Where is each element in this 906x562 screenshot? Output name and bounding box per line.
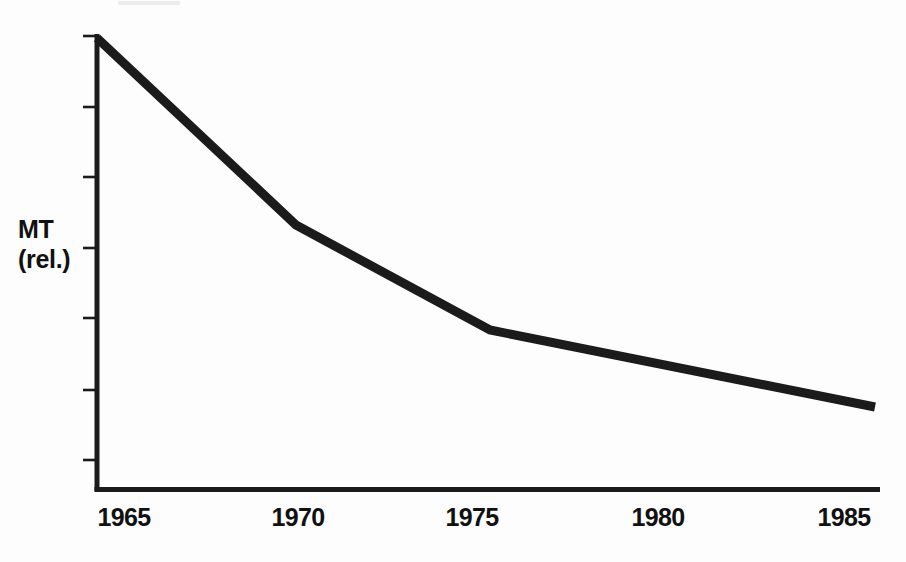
x-tick-label-1965: 1965	[79, 503, 169, 532]
chart-page: MT (rel.) 1965 1970 1975 1980 1985	[0, 0, 906, 562]
x-tick-label-1970: 1970	[253, 503, 343, 532]
y-axis-title: MT (rel.)	[18, 215, 94, 274]
y-axis-title-line-2: (rel.)	[18, 245, 94, 275]
x-tick-label-1985: 1985	[799, 503, 889, 532]
line-chart-plot	[0, 0, 906, 562]
x-tick-label-1975: 1975	[427, 503, 517, 532]
y-axis-title-line-1: MT	[18, 215, 54, 243]
data-series-mt-rel	[97, 38, 875, 407]
x-tick-label-1980: 1980	[613, 503, 703, 532]
